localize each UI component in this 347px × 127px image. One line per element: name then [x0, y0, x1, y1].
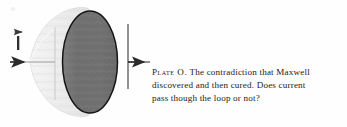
- caption-line-1: Plate O. The contradiction that Maxwell: [152, 66, 344, 79]
- caption-line-2: discovered and then cured. Does current: [152, 79, 344, 92]
- diagram-illustration: [0, 0, 150, 127]
- caption-line-1-rest: The contradiction that Maxwell: [190, 67, 310, 77]
- current-label-I: [17, 36, 19, 50]
- figure-caption: Plate O. The contradiction that Maxwell …: [152, 66, 344, 106]
- caption-line-3: pass though the loop or not?: [152, 92, 344, 105]
- current-label-group: [15, 32, 23, 50]
- caption-plate-label: Plate O.: [152, 67, 187, 77]
- figure-page: Plate O. The contradiction that Maxwell …: [0, 0, 347, 127]
